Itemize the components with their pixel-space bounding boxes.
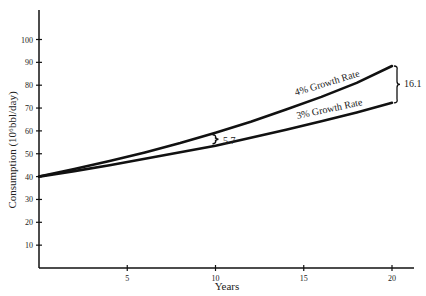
brace-year20 bbox=[394, 66, 400, 103]
y-tick-label: 60 bbox=[25, 127, 33, 136]
difference-label-year10: 5.7 bbox=[223, 135, 236, 146]
y-tick-label: 30 bbox=[25, 195, 33, 204]
x-tick-label: 5 bbox=[125, 274, 129, 283]
series-label-3pct: 3% Growth Rate bbox=[295, 96, 364, 121]
line-chart: 1020304050607080901005101520 Years Consu… bbox=[0, 0, 426, 296]
brace-year10 bbox=[213, 135, 219, 144]
y-tick-label: 50 bbox=[25, 150, 33, 159]
y-tick-label: 80 bbox=[25, 81, 33, 90]
x-tick-label: 15 bbox=[300, 274, 308, 283]
difference-label-year20: 16.1 bbox=[404, 78, 422, 89]
x-axis-title: Years bbox=[215, 280, 240, 292]
y-tick-label: 70 bbox=[25, 104, 33, 113]
y-tick-label: 20 bbox=[25, 218, 33, 227]
y-axis-title: Consumption (10⁶bbl/day) bbox=[6, 91, 19, 209]
x-tick-label: 20 bbox=[388, 274, 396, 283]
y-tick-label: 40 bbox=[25, 173, 33, 182]
y-tick-label: 10 bbox=[25, 241, 33, 250]
y-tick-label: 100 bbox=[21, 36, 33, 45]
y-tick-label: 90 bbox=[25, 58, 33, 67]
annotations bbox=[213, 66, 401, 144]
